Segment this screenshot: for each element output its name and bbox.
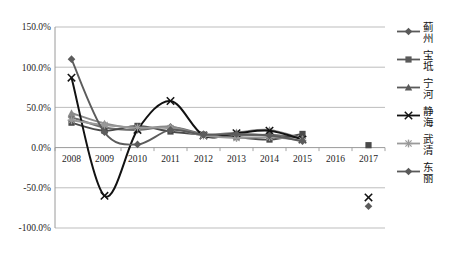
diamond-marker-icon — [396, 163, 421, 174]
legend-item[interactable]: 蓟州 — [396, 22, 433, 44]
legend-item-label: 东丽 — [421, 162, 433, 184]
square-marker-icon — [396, 51, 421, 62]
svg-text:2016: 2016 — [326, 154, 345, 164]
svg-text:2015: 2015 — [293, 154, 312, 164]
x-marker-icon — [396, 107, 421, 118]
legend-item[interactable]: 静海 — [396, 106, 433, 128]
svg-text:2010: 2010 — [128, 154, 147, 164]
star-marker-icon — [396, 135, 421, 146]
svg-text:-100.0%: -100.0% — [19, 223, 52, 233]
y-axis-tick-labels: 150.0%100.0%50.0%0.0%-50.0%-100.0% — [19, 22, 52, 233]
svg-text:2014: 2014 — [260, 154, 279, 164]
svg-text:2008: 2008 — [62, 154, 81, 164]
legend-item[interactable]: 宝坻 — [396, 50, 433, 72]
svg-text:2012: 2012 — [194, 154, 213, 164]
svg-text:2017: 2017 — [359, 154, 378, 164]
series-东丽 — [68, 55, 373, 210]
triangle-marker-icon — [396, 79, 421, 90]
legend-item-label: 蓟州 — [421, 22, 433, 44]
svg-text:2013: 2013 — [227, 154, 246, 164]
legend-item[interactable]: 武清 — [396, 134, 433, 156]
svg-text:150.0%: 150.0% — [22, 22, 51, 32]
chart-canvas: 150.0%100.0%50.0%0.0%-50.0%-100.0% 20082… — [0, 0, 396, 255]
data-series-group — [68, 55, 373, 210]
legend-item-label: 宝坻 — [421, 50, 433, 72]
chart-page: 150.0%100.0%50.0%0.0%-50.0%-100.0% 20082… — [0, 0, 460, 255]
legend-item[interactable]: 东丽 — [396, 162, 433, 184]
line-chart-plot: 150.0%100.0%50.0%0.0%-50.0%-100.0% 20082… — [0, 0, 396, 255]
legend-item-label: 武清 — [421, 134, 433, 156]
legend-item[interactable]: 宁河 — [396, 78, 433, 100]
svg-text:-50.0%: -50.0% — [23, 183, 51, 193]
diamond-marker-icon — [396, 23, 421, 34]
chart-legend: 蓟州 宝坻 宁河 静海 武清 东丽 — [396, 22, 460, 222]
x-axis-tick-labels: 2008200920102011201220132014201520162017 — [62, 154, 378, 164]
svg-text:50.0%: 50.0% — [26, 103, 51, 113]
legend-item-label: 宁河 — [421, 78, 433, 100]
svg-text:2009: 2009 — [95, 154, 114, 164]
legend-item-label: 静海 — [421, 106, 433, 128]
svg-text:0.0%: 0.0% — [31, 143, 51, 153]
svg-text:100.0%: 100.0% — [22, 63, 51, 73]
svg-text:2011: 2011 — [161, 154, 180, 164]
